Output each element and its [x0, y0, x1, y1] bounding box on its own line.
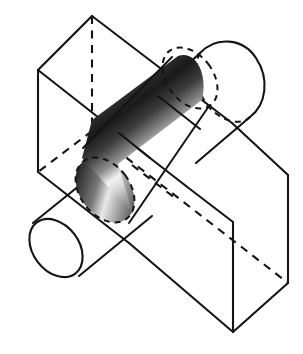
figure-container: Intersection of a rectangular prism and … [0, 0, 303, 354]
box-cylinder-intersection-diagram: Intersection of a rectangular prism and … [0, 0, 303, 354]
